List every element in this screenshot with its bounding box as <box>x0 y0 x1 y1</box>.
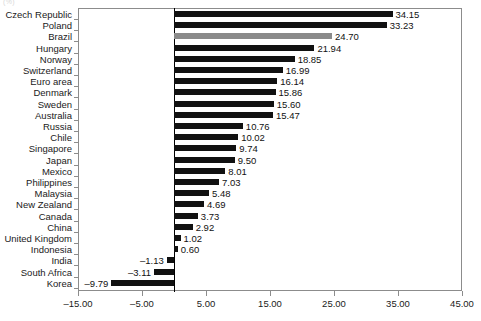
category-label: Russia <box>0 121 72 132</box>
bar-value-label: 15.47 <box>276 110 300 121</box>
bar-row: India–1.13 <box>0 255 481 266</box>
category-label: India <box>0 255 72 266</box>
bar <box>174 201 204 207</box>
bar-value-label: 15.60 <box>277 99 301 110</box>
bar <box>167 257 174 263</box>
bar-value-label: 2.92 <box>196 222 215 233</box>
bar-value-label: 34.15 <box>396 9 420 20</box>
bar-row: Philippines7.03 <box>0 177 481 188</box>
chart-container: (%) Czech Republic34.15Poland33.23Brazil… <box>0 0 481 321</box>
bar-value-label: 9.50 <box>238 155 257 166</box>
x-axis-tick-label: 25.00 <box>322 298 346 310</box>
bar <box>174 56 295 62</box>
bar-row: Poland33.23 <box>0 20 481 31</box>
bar <box>174 224 193 230</box>
bar <box>174 45 314 51</box>
bar <box>111 280 174 286</box>
category-label: Philippines <box>0 177 72 188</box>
bar <box>174 67 283 73</box>
x-axis-tick <box>78 291 79 296</box>
bar <box>174 78 277 84</box>
bar-row: Indonesia0.60 <box>0 244 481 255</box>
category-label: Denmark <box>0 87 72 98</box>
bar-value-label: 16.14 <box>280 76 304 87</box>
category-label: South Africa <box>0 267 72 278</box>
bar <box>174 11 393 17</box>
bar <box>174 168 225 174</box>
bar-value-label: 33.23 <box>390 20 414 31</box>
bar-row: Malaysia5.48 <box>0 188 481 199</box>
x-axis-tick <box>142 291 143 296</box>
bar-value-label: 1.02 <box>184 233 203 244</box>
category-label: Hungary <box>0 43 72 54</box>
category-label: Norway <box>0 54 72 65</box>
bar <box>174 134 238 140</box>
bar-row: Czech Republic34.15 <box>0 9 481 20</box>
bar <box>174 145 236 151</box>
bar <box>174 101 274 107</box>
category-label: Sweden <box>0 99 72 110</box>
bar-value-label: –9.79 <box>85 278 109 289</box>
bar-row: Australia15.47 <box>0 110 481 121</box>
bar-row: Korea–9.79 <box>0 278 481 289</box>
bar-row: Russia10.76 <box>0 121 481 132</box>
bar-row: Japan9.50 <box>0 155 481 166</box>
bar-row: Brazil24.70 <box>0 31 481 42</box>
category-label: Singapore <box>0 143 72 154</box>
bar-row: Denmark15.86 <box>0 87 481 98</box>
bar <box>174 235 181 241</box>
category-label: New Zealand <box>0 199 72 210</box>
x-axis-tick-label: 45.00 <box>450 298 474 310</box>
bar-row: China2.92 <box>0 222 481 233</box>
bar <box>174 246 178 252</box>
category-label: Czech Republic <box>0 9 72 20</box>
x-axis-tick <box>206 291 207 296</box>
bar-value-label: 10.02 <box>241 132 265 143</box>
category-label: Australia <box>0 110 72 121</box>
bar-value-label: 15.86 <box>279 87 303 98</box>
bar <box>174 33 332 39</box>
bar <box>174 157 235 163</box>
bar-value-label: 21.94 <box>317 43 341 54</box>
x-axis-tick <box>270 291 271 296</box>
category-label: Malaysia <box>0 188 72 199</box>
category-label: Chile <box>0 132 72 143</box>
bar-value-label: 18.85 <box>298 54 322 65</box>
category-label: Euro area <box>0 76 72 87</box>
bar-row: Norway18.85 <box>0 54 481 65</box>
x-axis-tick <box>462 291 463 296</box>
bar-value-label: 3.73 <box>201 211 220 222</box>
x-axis-tick <box>398 291 399 296</box>
bar <box>174 22 387 28</box>
category-label: Indonesia <box>0 244 72 255</box>
unit-annotation: (%) <box>3 0 15 6</box>
bar-value-label: 10.76 <box>246 121 270 132</box>
category-label: Mexico <box>0 166 72 177</box>
x-axis-tick-label: –15.00 <box>63 298 92 310</box>
category-label: Korea <box>0 278 72 289</box>
bar-row: United Kingdom1.02 <box>0 233 481 244</box>
bar-row: New Zealand4.69 <box>0 199 481 210</box>
bar-row: Hungary21.94 <box>0 43 481 54</box>
bar-row: Chile10.02 <box>0 132 481 143</box>
bar <box>174 89 276 95</box>
category-label: Poland <box>0 20 72 31</box>
bar <box>154 269 174 275</box>
y-axis-tick <box>74 288 78 289</box>
bar-value-label: –3.11 <box>128 267 151 278</box>
bar-row: Switzerland16.99 <box>0 65 481 76</box>
x-axis-tick-label: 35.00 <box>386 298 410 310</box>
bar <box>174 190 209 196</box>
bar-row: Euro area16.14 <box>0 76 481 87</box>
bar-value-label: 0.60 <box>181 244 200 255</box>
bar-value-label: 8.01 <box>228 166 247 177</box>
bar-value-label: 16.99 <box>286 65 310 76</box>
bar-row: Canada3.73 <box>0 211 481 222</box>
category-label: Switzerland <box>0 65 72 76</box>
category-label: United Kingdom <box>0 233 72 244</box>
category-label: Brazil <box>0 31 72 42</box>
bar-row: South Africa–3.11 <box>0 267 481 278</box>
bar-row: Singapore9.74 <box>0 143 481 154</box>
category-label: China <box>0 222 72 233</box>
bar-value-label: 9.74 <box>239 143 258 154</box>
